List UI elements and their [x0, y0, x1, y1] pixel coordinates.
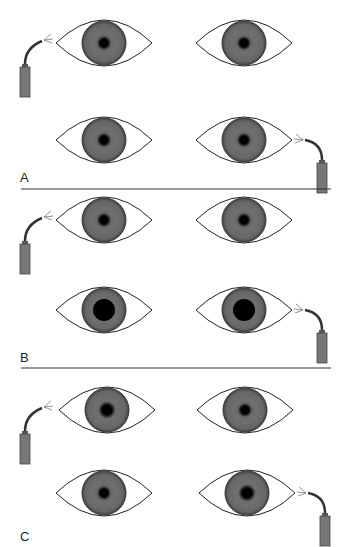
flashlight-icon — [294, 304, 327, 363]
iris — [222, 288, 266, 332]
pupil — [233, 299, 255, 321]
panel-label: A — [20, 170, 29, 185]
right-eye — [196, 20, 292, 66]
left-eye — [56, 20, 152, 66]
right-eye — [197, 387, 293, 433]
flashlight-icon — [294, 134, 327, 193]
iris — [225, 471, 269, 515]
pupil — [237, 133, 251, 147]
pupil-reflex-diagram: ABC — [0, 0, 348, 547]
flashlight-icon — [20, 34, 53, 97]
iris — [85, 388, 129, 432]
right-eye — [196, 287, 292, 333]
pupil — [97, 213, 111, 227]
pupil — [239, 485, 256, 502]
panel-label: B — [20, 350, 29, 365]
iris — [222, 118, 266, 162]
left-eye — [56, 470, 152, 516]
pupil — [93, 299, 115, 321]
iris — [82, 118, 126, 162]
pupil — [99, 402, 116, 419]
left-eye — [56, 197, 152, 243]
iris — [82, 198, 126, 242]
left-eye — [59, 387, 155, 433]
iris — [82, 288, 126, 332]
iris — [222, 21, 266, 65]
pupil — [97, 486, 111, 500]
right-eye — [196, 117, 292, 163]
right-eye — [199, 470, 295, 516]
pupil — [237, 36, 251, 50]
flashlight-icon — [20, 211, 53, 274]
iris — [82, 471, 126, 515]
iris — [82, 21, 126, 65]
pupil — [97, 36, 111, 50]
right-eye — [196, 197, 292, 243]
pupil — [237, 213, 251, 227]
pupil — [238, 403, 252, 417]
iris — [222, 198, 266, 242]
pupil — [97, 133, 111, 147]
panel-label: C — [20, 529, 29, 544]
iris — [223, 388, 267, 432]
left-eye — [56, 287, 152, 333]
flashlight-icon — [297, 487, 330, 546]
left-eye — [56, 117, 152, 163]
flashlight-icon — [20, 401, 53, 464]
